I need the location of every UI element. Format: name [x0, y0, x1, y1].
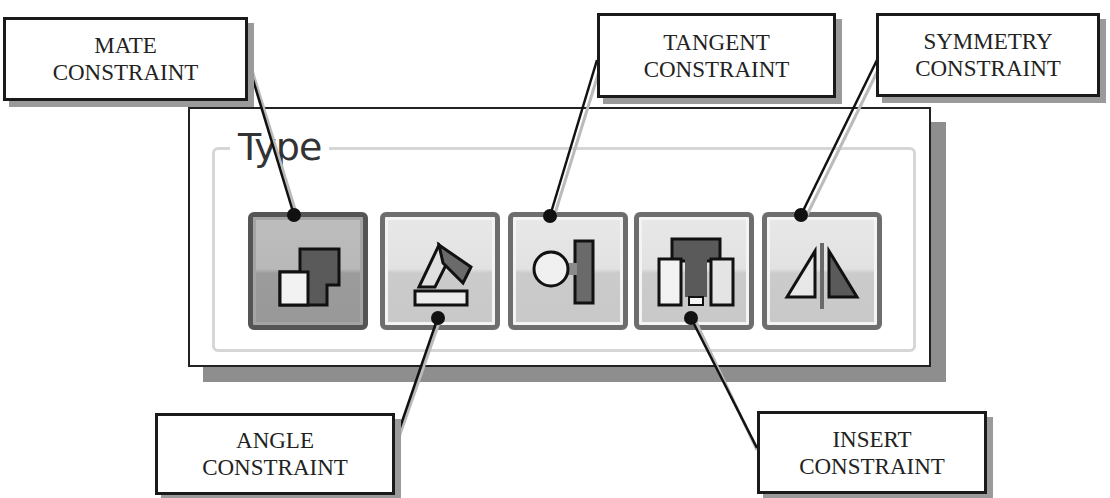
- callout-mate-constraint: MATE CONSTRAINT: [3, 17, 248, 101]
- mate-constraint-icon: [253, 217, 363, 325]
- symmetry-constraint-icon: [767, 217, 877, 325]
- callout-symmetry-constraint: SYMMETRY CONSTRAINT: [876, 13, 1100, 97]
- tangent-constraint-button[interactable]: [508, 212, 628, 330]
- callout-line-2: CONSTRAINT: [6, 59, 245, 86]
- insert-constraint-button[interactable]: [634, 212, 754, 330]
- symmetry-constraint-button[interactable]: [762, 212, 882, 330]
- mate-constraint-button[interactable]: [248, 212, 368, 330]
- callout-line-2: CONSTRAINT: [600, 56, 833, 83]
- callout-line-1: MATE: [6, 32, 245, 59]
- tangent-constraint-icon: [513, 217, 623, 325]
- group-title: Type: [230, 125, 329, 169]
- angle-constraint-button[interactable]: [380, 212, 500, 330]
- callout-line-2: CONSTRAINT: [158, 454, 392, 481]
- angle-constraint-icon: [385, 217, 495, 325]
- insert-constraint-icon: [639, 217, 749, 325]
- callout-line-1: TANGENT: [600, 29, 833, 56]
- callout-line-1: INSERT: [760, 426, 984, 453]
- callout-line-2: CONSTRAINT: [879, 55, 1097, 82]
- callout-line-2: CONSTRAINT: [760, 453, 984, 480]
- callout-tangent-constraint: TANGENT CONSTRAINT: [597, 13, 836, 98]
- callout-angle-constraint: ANGLE CONSTRAINT: [155, 413, 395, 495]
- callout-line-1: SYMMETRY: [879, 28, 1097, 55]
- constraint-type-panel: Type: [188, 107, 931, 367]
- callout-line-1: ANGLE: [158, 427, 392, 454]
- callout-insert-constraint: INSERT CONSTRAINT: [757, 411, 987, 494]
